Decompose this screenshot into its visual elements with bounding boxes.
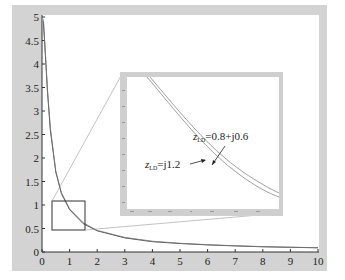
x-tick-label: 10 xyxy=(313,255,325,267)
y-tick-label: 5 xyxy=(34,11,40,23)
y-tick-label: 1.5 xyxy=(25,176,39,188)
x-tick-label: 2 xyxy=(94,255,100,267)
y-tick-label: 2 xyxy=(34,152,40,164)
y-tick-label: 2.5 xyxy=(25,129,39,141)
inset-plot-area xyxy=(127,77,279,209)
y-tick-label: 3 xyxy=(34,105,40,117)
x-tick-label: 7 xyxy=(232,255,238,267)
x-tick-label: 9 xyxy=(288,255,294,267)
x-tick-label: 3 xyxy=(122,255,128,267)
x-tick-label: 0 xyxy=(39,255,45,267)
y-tick-label: 4.5 xyxy=(25,35,39,47)
x-tick-label: 8 xyxy=(260,255,266,267)
x-tick-label: 1 xyxy=(67,255,73,267)
x-tick-label: 6 xyxy=(205,255,211,267)
x-tick-label: 4 xyxy=(150,255,156,267)
x-tick-label: 5 xyxy=(177,255,183,267)
y-tick-label: 3.5 xyxy=(25,82,39,94)
y-tick-label: 0.5 xyxy=(25,223,39,235)
y-tick-label: 1 xyxy=(34,199,40,211)
y-tick-label: 4 xyxy=(34,58,40,70)
chart-figure: 00.511.522.533.544.55 012345678910 zLD=0… xyxy=(0,0,345,280)
